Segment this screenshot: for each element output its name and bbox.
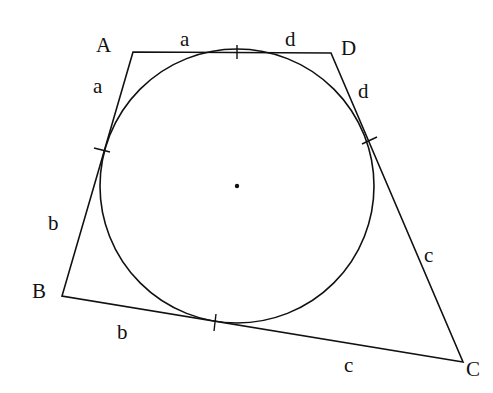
segment-label-dc-d: d [358,79,369,103]
vertex-label-d: D [341,36,356,60]
vertex-label-a: A [96,33,112,57]
segment-label-ab-a: a [93,74,103,98]
quadrilateral-diagram: A B C D a d a b d c b c [0,0,493,393]
segment-label-bc-c: c [344,353,353,377]
segment-label-ad-d: d [285,27,296,51]
vertex-label-c: C [466,357,480,381]
segment-label-ab-b: b [48,211,59,235]
quadrilateral-abcd [62,52,463,362]
segment-label-ad-a: a [180,27,190,51]
vertex-label-b: B [32,279,46,303]
tangent-mark-bc [214,314,216,331]
tangent-mark-ab [94,148,110,152]
segment-label-bc-b: b [117,320,128,344]
segment-label-dc-c: c [424,243,433,267]
incircle-center-dot [235,184,239,188]
